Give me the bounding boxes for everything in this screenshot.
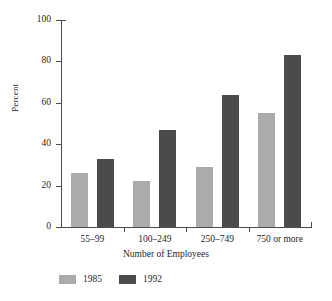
- bar-chart-figure: Percent 020406080100 55–99100–249250–749…: [0, 0, 332, 301]
- x-tick: [186, 227, 187, 232]
- bar-1985-1: [133, 181, 150, 227]
- y-tick: 80: [56, 61, 61, 62]
- bar-1992-0: [97, 159, 114, 227]
- x-tick: [124, 227, 125, 232]
- bar-1992-1: [159, 130, 176, 227]
- x-axis-right-cap: [311, 222, 312, 228]
- y-tick: 100: [56, 20, 61, 21]
- bar-1985-3: [258, 113, 275, 227]
- legend-label: 1992: [143, 274, 162, 284]
- bar-1985-2: [196, 167, 213, 227]
- dark-gray-swatch: [119, 275, 136, 284]
- y-tick-label: 60: [42, 96, 52, 109]
- y-tick-label: 80: [42, 54, 52, 67]
- chart-legend: 19851992: [59, 274, 162, 284]
- y-axis-top-cap: [61, 20, 66, 21]
- category-label-3: 750 or more: [257, 234, 303, 244]
- y-tick: 0: [56, 227, 61, 228]
- light-gray-swatch: [59, 275, 76, 284]
- y-axis-line: [61, 20, 62, 228]
- y-tick-label: 100: [37, 13, 51, 26]
- legend-item-1992: 1992: [119, 274, 162, 284]
- x-tick: [249, 227, 250, 232]
- y-tick-label: 40: [42, 137, 52, 150]
- bar-1992-2: [222, 95, 239, 227]
- category-label-0: 55–99: [80, 234, 104, 244]
- y-tick: 40: [56, 144, 61, 145]
- legend-item-1985: 1985: [59, 274, 102, 284]
- y-tick-label: 20: [42, 179, 52, 192]
- y-tick-label: 0: [46, 220, 51, 233]
- y-tick: 20: [56, 186, 61, 187]
- legend-label: 1985: [83, 274, 102, 284]
- x-axis-label: Number of Employees: [0, 249, 332, 259]
- y-axis-label: Percent: [10, 42, 20, 112]
- bar-1985-0: [71, 173, 88, 227]
- category-label-2: 250–749: [201, 234, 234, 244]
- category-label-1: 100–249: [138, 234, 171, 244]
- bar-1992-3: [284, 55, 301, 227]
- y-tick: 60: [56, 103, 61, 104]
- plot-area: 020406080100 55–99100–249250–749750 or m…: [61, 20, 311, 227]
